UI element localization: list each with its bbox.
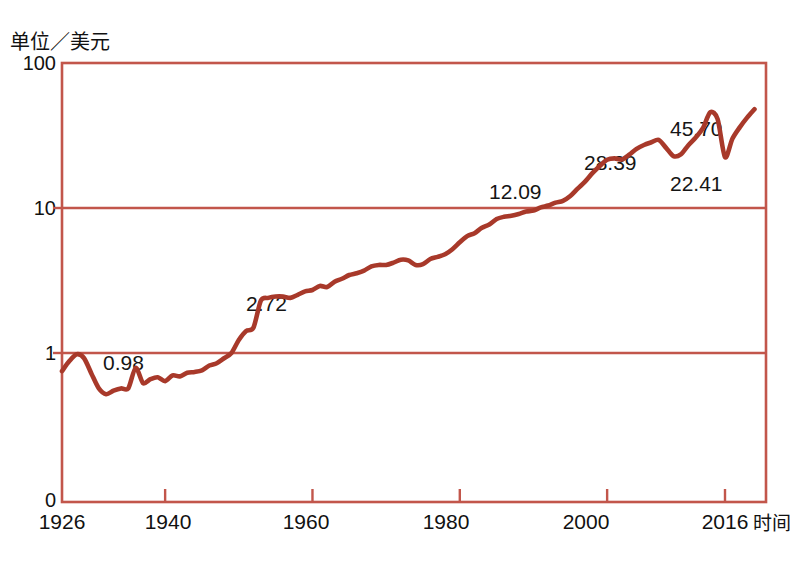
chart-container: 单位／美元 100 10 1 0 1926 1940 1960 1980 200… xyxy=(0,0,811,569)
data-line-series xyxy=(62,109,754,394)
axis-frame xyxy=(62,63,766,502)
plot-area xyxy=(0,0,811,569)
axis-ticks xyxy=(53,208,725,502)
grid-lines xyxy=(62,208,766,353)
